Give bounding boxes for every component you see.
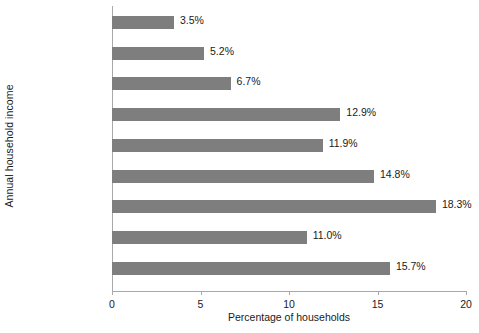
- bar: [112, 77, 231, 90]
- y-axis-title-text: Annual household income: [3, 84, 15, 207]
- x-tick-label: 10: [283, 298, 295, 310]
- x-tick-label: 20: [460, 298, 472, 310]
- bar-value-label: 11.0%: [313, 229, 342, 241]
- bar-row: Under $5,0003.5%: [112, 16, 466, 29]
- bar: [112, 47, 204, 60]
- bar: [112, 139, 323, 152]
- bar: [112, 16, 174, 29]
- bar-value-label: 6.7%: [237, 75, 261, 87]
- bar: [112, 200, 436, 213]
- bar-row: $25,000–34,99911.9%: [112, 139, 466, 152]
- x-tick-mark: [201, 291, 202, 295]
- bar-row: $5,000–9,9995.2%: [112, 47, 466, 60]
- bar-row: $100,000 and over15.7%: [112, 262, 466, 275]
- bar-value-label: 3.5%: [180, 14, 204, 26]
- bar: [112, 108, 340, 121]
- bar-value-label: 14.8%: [380, 168, 410, 180]
- bar-row: $35,000–49,99914.8%: [112, 170, 466, 183]
- plot-area: Under $5,0003.5%$5,000–9,9995.2%$10,000–…: [112, 6, 466, 291]
- bar-value-label: 12.9%: [346, 106, 376, 118]
- bar: [112, 231, 307, 244]
- bar-value-label: 11.9%: [329, 137, 358, 149]
- bar-value-label: 18.3%: [442, 198, 472, 210]
- x-tick-mark: [289, 291, 290, 295]
- x-tick-label: 0: [109, 298, 115, 310]
- bar-value-label: 5.2%: [210, 45, 234, 57]
- bar: [112, 170, 374, 183]
- x-tick-label: 5: [198, 298, 204, 310]
- bar-row: $50,000–74,99918.3%: [112, 200, 466, 213]
- bar-row: $10,000–14,9996.7%: [112, 77, 466, 90]
- x-tick-mark: [112, 291, 113, 295]
- bar-value-label: 15.7%: [396, 260, 426, 272]
- bar-row: $75,000–99,99911.0%: [112, 231, 466, 244]
- x-tick-mark: [466, 291, 467, 295]
- y-axis-title: Annual household income: [0, 0, 18, 291]
- bar-chart: Annual household income Under $5,0003.5%…: [0, 0, 479, 333]
- bar-row: $15,000–24,99912.9%: [112, 108, 466, 121]
- x-tick-mark: [378, 291, 379, 295]
- x-tick-label: 15: [372, 298, 384, 310]
- x-axis-title: Percentage of households: [112, 311, 466, 323]
- bar: [112, 262, 390, 275]
